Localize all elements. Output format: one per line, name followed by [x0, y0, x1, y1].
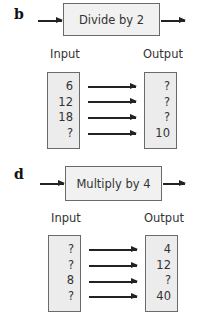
row-arrow-icon — [88, 133, 136, 135]
row-arrow-icon — [89, 296, 137, 298]
input-arrow-icon — [38, 20, 62, 22]
output-value: ? — [145, 79, 170, 95]
part-letter: b — [14, 6, 24, 22]
row-arrow-icon — [89, 265, 137, 267]
input-value: ? — [49, 258, 74, 274]
row-arrow-icon — [88, 86, 136, 88]
row-arrow-icon — [89, 281, 137, 283]
input-arrow-icon — [40, 183, 64, 185]
output-value: 4 — [146, 242, 171, 258]
function-box: Divide by 2 — [63, 3, 160, 36]
output-value: ? — [145, 110, 170, 126]
function-machine-b: b Divide by 2 Input Output 6 12 18 ? ? ?… — [0, 0, 199, 160]
input-column: 6 12 18 ? — [47, 72, 80, 149]
input-column: ? ? 8 ? — [48, 235, 81, 312]
input-value: ? — [49, 242, 74, 258]
output-value: 10 — [145, 126, 170, 142]
output-value: 40 — [146, 289, 171, 305]
output-column: ? ? ? 10 — [144, 72, 177, 149]
input-value: ? — [49, 289, 74, 305]
input-header: Input — [51, 211, 81, 225]
row-arrow-icon — [89, 249, 137, 251]
output-value: ? — [145, 95, 170, 111]
output-header: Output — [144, 211, 184, 225]
output-arrow-icon — [161, 20, 185, 22]
input-value: 6 — [48, 79, 73, 95]
input-header: Input — [50, 47, 80, 61]
output-value: 12 — [146, 258, 171, 274]
input-value: 12 — [48, 95, 73, 111]
output-column: 4 12 ? 40 — [145, 235, 178, 312]
row-arrow-icon — [88, 117, 136, 119]
function-box: Multiply by 4 — [65, 166, 162, 201]
output-value: ? — [146, 273, 171, 289]
function-machine-d: d Multiply by 4 Input Output ? ? 8 ? 4 1… — [0, 160, 199, 320]
output-arrow-icon — [163, 183, 185, 185]
output-header: Output — [143, 47, 183, 61]
input-value: 8 — [49, 273, 74, 289]
input-value: ? — [48, 126, 73, 142]
row-arrow-icon — [88, 101, 136, 103]
input-value: 18 — [48, 110, 73, 126]
part-letter: d — [14, 166, 24, 182]
